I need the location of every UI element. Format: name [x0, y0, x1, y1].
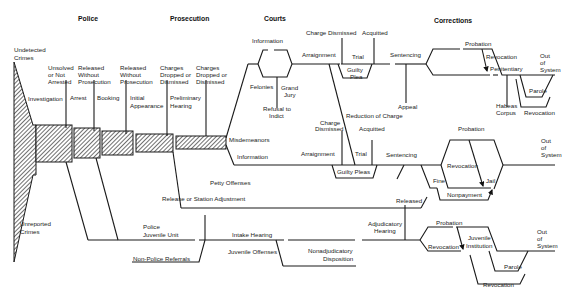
svg-text:Sentencing: Sentencing	[390, 51, 422, 58]
svg-text:Misdemeanors: Misdemeanors	[229, 136, 270, 143]
svg-text:Booking: Booking	[97, 94, 120, 101]
svg-text:or Not: or Not	[48, 71, 65, 78]
svg-text:Trial: Trial	[355, 150, 367, 157]
svg-text:Revocation: Revocation	[486, 53, 518, 60]
svg-text:of: of	[541, 144, 546, 151]
svg-text:Police: Police	[143, 223, 160, 230]
svg-text:Acquitted: Acquitted	[359, 125, 385, 132]
svg-text:Trial: Trial	[352, 53, 364, 60]
svg-text:Juvenile: Juvenile	[468, 234, 491, 241]
svg-text:Sentencing: Sentencing	[386, 151, 418, 158]
svg-text:Jury: Jury	[284, 91, 297, 98]
svg-text:Corpus: Corpus	[496, 109, 516, 116]
header-prosecution: Prosecution	[170, 15, 209, 22]
svg-text:Juvenile Offenses: Juvenile Offenses	[228, 248, 277, 255]
svg-text:Parole: Parole	[529, 87, 547, 94]
svg-text:Charge Dismissed: Charge Dismissed	[306, 29, 357, 36]
svg-text:Hearing: Hearing	[374, 227, 396, 234]
svg-text:Revocation: Revocation	[483, 281, 515, 288]
svg-text:Felonies: Felonies	[250, 83, 273, 90]
svg-text:Unreported: Unreported	[20, 220, 52, 227]
header-police: Police	[78, 15, 98, 22]
svg-text:Refusal to: Refusal to	[263, 105, 291, 112]
svg-text:Institution: Institution	[466, 242, 493, 249]
svg-text:Guilty Pleas: Guilty Pleas	[337, 168, 370, 175]
svg-text:Indict: Indict	[269, 112, 284, 119]
svg-text:Non-Police Referrals: Non-Police Referrals	[133, 255, 190, 262]
svg-text:Prosecution: Prosecution	[78, 78, 111, 85]
svg-text:Charges: Charges	[160, 64, 183, 71]
svg-text:Probation: Probation	[458, 125, 485, 132]
svg-text:Intake Hearing: Intake Hearing	[232, 231, 273, 238]
svg-text:Arraignment: Arraignment	[302, 51, 336, 58]
svg-text:Appearance: Appearance	[130, 102, 164, 109]
svg-text:Disposition: Disposition	[323, 255, 354, 262]
svg-text:Crimes: Crimes	[20, 228, 40, 235]
svg-text:Penitentiary: Penitentiary	[490, 65, 524, 72]
svg-text:Out: Out	[540, 52, 550, 59]
svg-text:Investigation: Investigation	[28, 95, 63, 102]
svg-text:Appeal: Appeal	[398, 103, 417, 110]
hatched-flow-pipe	[14, 62, 226, 262]
svg-text:Information: Information	[252, 37, 284, 44]
svg-text:Revocation: Revocation	[524, 109, 556, 116]
svg-text:Arrested: Arrested	[48, 78, 72, 85]
svg-text:Juvenile Unit: Juvenile Unit	[143, 231, 179, 238]
svg-text:Acquitted: Acquitted	[362, 29, 388, 36]
svg-text:of: of	[537, 235, 542, 242]
header-courts: Courts	[264, 15, 286, 22]
svg-text:Information: Information	[237, 153, 269, 160]
svg-text:Parole: Parole	[504, 263, 522, 270]
svg-text:Hearing: Hearing	[170, 102, 192, 109]
svg-text:Petty Offenses: Petty Offenses	[210, 179, 250, 186]
svg-text:Without: Without	[120, 71, 141, 78]
svg-text:Revocation: Revocation	[428, 243, 460, 250]
svg-text:Arraignment: Arraignment	[301, 150, 335, 157]
svg-text:Reduction of Charge: Reduction of Charge	[346, 112, 403, 119]
svg-text:Probation: Probation	[465, 40, 492, 47]
criminal-justice-flow-diagram: Police Prosecution Courts Corrections	[0, 0, 569, 297]
svg-text:System: System	[537, 242, 558, 249]
svg-text:Fine: Fine	[433, 177, 446, 184]
svg-text:of: of	[540, 59, 545, 66]
svg-text:Probation: Probation	[436, 219, 463, 226]
svg-text:Release or Station Adjustment: Release or Station Adjustment	[162, 195, 246, 202]
svg-text:Undetected: Undetected	[14, 46, 46, 53]
svg-text:Plea: Plea	[350, 73, 363, 80]
svg-text:Without: Without	[78, 71, 99, 78]
svg-text:Crimes: Crimes	[14, 54, 34, 61]
svg-text:Guilty: Guilty	[347, 66, 364, 73]
svg-text:Dropped or: Dropped or	[196, 71, 227, 78]
svg-text:Prosecution: Prosecution	[120, 78, 153, 85]
svg-text:System: System	[541, 151, 562, 158]
svg-text:Dismissed: Dismissed	[160, 78, 189, 85]
header-corrections: Corrections	[434, 17, 472, 24]
svg-text:Initial: Initial	[130, 94, 144, 101]
svg-text:Adjudicatory: Adjudicatory	[368, 220, 403, 227]
svg-text:Dismissed: Dismissed	[315, 125, 344, 132]
svg-text:Released: Released	[120, 64, 147, 71]
svg-text:Released: Released	[396, 197, 423, 204]
svg-text:Dropped or: Dropped or	[160, 71, 191, 78]
svg-text:Arrest: Arrest	[70, 94, 87, 101]
svg-text:Dismissed: Dismissed	[196, 78, 225, 85]
svg-text:Out: Out	[537, 228, 547, 235]
svg-text:Habeas: Habeas	[496, 102, 517, 109]
svg-text:Unsolved: Unsolved	[48, 64, 74, 71]
svg-text:Out: Out	[541, 137, 551, 144]
svg-text:System: System	[540, 66, 561, 73]
svg-text:Revocation: Revocation	[447, 162, 479, 169]
svg-text:Charges: Charges	[196, 64, 219, 71]
svg-text:Grand: Grand	[281, 84, 299, 91]
svg-text:Preliminary: Preliminary	[170, 94, 202, 101]
svg-text:Released: Released	[78, 64, 105, 71]
svg-text:Nonpayment: Nonpayment	[447, 191, 482, 198]
svg-text:Nonadjudicatory: Nonadjudicatory	[308, 247, 354, 254]
svg-text:Jail: Jail	[486, 177, 495, 184]
